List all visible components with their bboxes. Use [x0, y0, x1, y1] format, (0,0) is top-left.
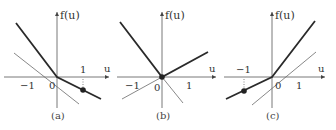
panel-a: f(u) u −1 0 1 (a)	[4, 9, 111, 121]
figure: f(u) u −1 0 1 (a) f(u) u −1 0 1 (b) f(u)…	[0, 0, 336, 130]
marked-point	[159, 74, 165, 80]
tick-zero: 0	[275, 80, 281, 91]
caption: (b)	[156, 110, 170, 121]
tick-neg-one: −1	[125, 80, 140, 91]
y-axis-label: f(u)	[165, 9, 185, 22]
thin-line-right	[162, 77, 183, 103]
y-axis-label: f(u)	[275, 9, 295, 22]
tick-one: 1	[296, 80, 302, 91]
tick-neg-one: −1	[20, 80, 35, 91]
caption: (c)	[266, 110, 280, 121]
marked-point	[80, 87, 86, 93]
x-axis-label: u	[318, 63, 325, 74]
thin-line	[14, 53, 79, 104]
tick-one: 1	[186, 80, 192, 91]
tick-zero: 0	[49, 80, 55, 91]
marked-point	[241, 88, 247, 94]
tick-zero: 0	[154, 82, 160, 93]
panel-b: f(u) u −1 0 1 (b)	[117, 9, 216, 121]
thick-line	[120, 22, 208, 77]
y-axis-label: f(u)	[60, 9, 80, 22]
x-axis-label: u	[209, 63, 216, 74]
x-axis-label: u	[104, 63, 111, 74]
caption: (a)	[51, 110, 65, 121]
tick-neg-one: −1	[236, 64, 251, 75]
tick-one: 1	[80, 64, 86, 75]
panel-c: f(u) u −1 0 1 (c)	[224, 9, 325, 121]
